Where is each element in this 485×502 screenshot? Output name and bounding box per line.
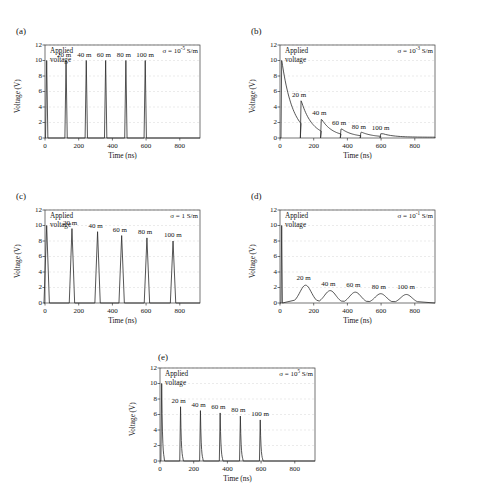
y-axis-tick-label: 12 (139, 364, 157, 372)
y-axis-tick-label: 6 (24, 252, 42, 260)
applied-voltage-annotation: Appliedvoltage (165, 370, 188, 387)
plot-area-e (0, 0, 485, 502)
x-axis-tick-label: 600 (367, 142, 395, 150)
applied-voltage-line1: Applied (285, 47, 308, 56)
x-axis-tick-label: 200 (65, 307, 93, 315)
y-axis-label: Voltage (V) (129, 402, 137, 436)
trace-distance-label: 60 m (113, 226, 127, 234)
panel-tag-c: (c) (16, 191, 26, 201)
y-axis-tick-label: 6 (24, 87, 42, 95)
plot-area-c (0, 0, 485, 502)
x-axis-tick-label: 400 (98, 307, 126, 315)
trace-distance-label: 40 m (77, 51, 91, 59)
y-axis-tick-label: 10 (259, 221, 277, 229)
trace-distance-label: 20 m (297, 274, 311, 282)
trace-distance-label: 40 m (191, 401, 205, 409)
y-axis-tick-label: 12 (259, 206, 277, 214)
x-axis-tick-label: 400 (98, 142, 126, 150)
y-axis-tick-label: 12 (24, 206, 42, 214)
y-axis-tick-label: 8 (24, 237, 42, 245)
trace-distance-label: 80 m (231, 406, 245, 414)
trace-distance-label: 20 m (63, 219, 77, 227)
x-axis-label: Time (ns) (45, 316, 200, 325)
x-axis-tick-label: 600 (132, 307, 160, 315)
sigma-annotation: σ = 10-1 S/m (373, 212, 433, 220)
x-axis-tick-label: 400 (333, 142, 361, 150)
y-axis-tick-label: 4 (24, 268, 42, 276)
applied-voltage-line2: voltage (285, 56, 308, 65)
y-axis-tick-label: 2 (259, 118, 277, 126)
y-axis-tick-label: 2 (24, 118, 42, 126)
trace-distance-label: 100 m (397, 283, 415, 291)
x-axis-tick-label: 200 (300, 142, 328, 150)
trace-distance-label: 60 m (346, 281, 360, 289)
x-axis-tick-label: 200 (300, 307, 328, 315)
trace-distance-label: 40 m (89, 222, 103, 230)
y-axis-tick-label: 2 (139, 441, 157, 449)
y-axis-tick-label: 6 (259, 252, 277, 260)
trace-distance-label: 20 m (292, 91, 306, 99)
trace-distance-label: 60 m (211, 403, 225, 411)
y-axis-tick-label: 8 (259, 72, 277, 80)
x-axis-tick-label: 800 (401, 307, 429, 315)
sigma-suffix: S/m (420, 212, 433, 220)
panel-tag-b: (b) (251, 26, 262, 36)
y-axis-tick-label: 4 (24, 103, 42, 111)
sigma-prefix: σ = 10 (398, 47, 416, 55)
y-axis-tick-label: 8 (24, 72, 42, 80)
trace-distance-label: 80 m (372, 283, 386, 291)
y-axis-tick-label: 12 (24, 41, 42, 49)
x-axis-tick-label: 0 (146, 465, 174, 473)
x-axis-tick-label: 400 (213, 465, 241, 473)
x-axis-tick-label: 600 (132, 142, 160, 150)
waveform-trace (160, 384, 315, 462)
sigma-prefix: σ = 10 (279, 370, 297, 378)
y-axis-tick-label: 10 (24, 56, 42, 64)
x-axis-tick-label: 800 (166, 142, 194, 150)
x-axis-tick-label: 600 (367, 307, 395, 315)
sigma-prefix: σ = 10 (398, 212, 416, 220)
y-axis-tick-label: 10 (24, 221, 42, 229)
trace-distance-label: 80 m (138, 228, 152, 236)
x-axis-tick-label: 600 (247, 465, 275, 473)
plot-area-b (0, 0, 485, 502)
y-axis-tick-label: 4 (139, 426, 157, 434)
y-axis-tick-label: 0 (24, 134, 42, 142)
trace-distance-label: 100 m (372, 124, 390, 132)
y-axis-label: Voltage (V) (14, 79, 22, 113)
panel-tag-a: (a) (16, 26, 26, 36)
applied-voltage-line1: Applied (165, 370, 188, 379)
y-axis-tick-label: 4 (259, 268, 277, 276)
y-axis-tick-label: 12 (259, 41, 277, 49)
y-axis-tick-label: 8 (139, 395, 157, 403)
y-axis-tick-label: 2 (24, 283, 42, 291)
trace-distance-label: 20 m (57, 51, 71, 59)
y-axis-tick-label: 0 (259, 134, 277, 142)
waveform-trace (45, 61, 200, 139)
sigma-suffix: S/m (185, 47, 198, 55)
x-axis-label: Time (ns) (45, 151, 200, 160)
y-axis-label: Voltage (V) (249, 79, 257, 113)
y-axis-tick-label: 0 (24, 299, 42, 307)
sigma-suffix: S/m (300, 370, 313, 378)
x-axis-tick-label: 200 (65, 142, 93, 150)
y-axis-tick-label: 6 (259, 87, 277, 95)
applied-voltage-annotation: Appliedvoltage (285, 47, 308, 64)
sigma-prefix: σ = 10 (163, 47, 181, 55)
y-axis-tick-label: 8 (259, 237, 277, 245)
trace-distance-label: 100 m (136, 51, 154, 59)
y-axis-label: Voltage (V) (249, 244, 257, 278)
y-axis-tick-label: 2 (259, 283, 277, 291)
plot-area-a (0, 0, 485, 502)
y-axis-tick-label: 10 (259, 56, 277, 64)
applied-voltage-annotation: Appliedvoltage (285, 212, 308, 229)
trace-distance-label: 100 m (251, 410, 269, 418)
x-axis-tick-label: 0 (266, 142, 294, 150)
x-axis-tick-label: 0 (31, 307, 59, 315)
y-axis-tick-label: 6 (139, 410, 157, 418)
trace-distance-label: 60 m (97, 51, 111, 59)
trace-distance-label: 60 m (332, 119, 346, 127)
panel-tag-e: (e) (158, 352, 168, 362)
x-axis-tick-label: 800 (166, 307, 194, 315)
x-axis-tick-label: 0 (31, 142, 59, 150)
